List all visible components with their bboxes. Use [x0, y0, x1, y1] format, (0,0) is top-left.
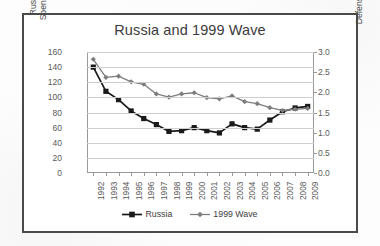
legend-item-russia[interactable]: Russia — [122, 210, 172, 219]
x-axis-tickmark — [282, 173, 283, 176]
x-axis-tick: 2002 — [223, 182, 231, 200]
right-axis-tickmark — [314, 52, 317, 53]
chart-title: Russia and 1999 Wave — [24, 22, 356, 38]
x-axis-tickmark — [131, 173, 132, 176]
x-axis-tickmark — [207, 173, 208, 176]
legend-square-marker-icon — [122, 210, 142, 219]
right-axis-tick: 0.5 — [318, 149, 358, 158]
chart-figure-frame: Russia and 1999 Wave Russian Military Sp… — [22, 13, 358, 233]
x-axis-tickmark — [270, 173, 271, 176]
legend-label: 1999 Wave — [213, 210, 257, 219]
x-axis-tick: 1993 — [110, 182, 118, 200]
plot-area — [87, 52, 314, 173]
right-axis-tickmark — [314, 113, 317, 114]
x-axis-tickmark — [245, 173, 246, 176]
left-axis-tick: 100 — [22, 93, 62, 102]
legend-label: Russia — [145, 210, 172, 219]
x-axis-tickmark — [182, 173, 183, 176]
gridline — [87, 128, 314, 129]
gridline — [87, 113, 314, 114]
gridline — [87, 82, 314, 83]
right-axis-tick: 2.5 — [318, 68, 358, 77]
x-axis-tick: 2004 — [248, 182, 256, 200]
left-axis-title: Russian Military Spending ($million — [28, 0, 49, 49]
x-axis-tick: 1995 — [135, 182, 143, 200]
x-axis-tickmark — [93, 173, 94, 176]
x-axis-tickmark — [144, 173, 145, 176]
left-axis-tick: 160 — [22, 48, 62, 57]
x-axis-tick: 1996 — [147, 182, 155, 200]
left-axis-tick: 0 — [22, 169, 62, 178]
legend-diamond-marker-icon — [190, 210, 210, 219]
x-axis-tickmark — [119, 173, 120, 176]
x-axis-tick: 2003 — [236, 182, 244, 200]
left-axis-tick: 40 — [22, 139, 62, 148]
right-axis-title: Defense as % GDP — [354, 0, 364, 49]
left-axis-tick: 140 — [22, 63, 62, 72]
left-axis-title-line1: Russian Military — [28, 0, 38, 49]
gridline — [87, 67, 314, 68]
x-axis-tick: 1998 — [173, 182, 181, 200]
right-axis-tickmark — [314, 133, 317, 134]
x-axis-tickmark — [156, 173, 157, 176]
left-axis-tick: 80 — [22, 109, 62, 118]
x-axis-tickmark — [257, 173, 258, 176]
x-axis-tick: 2008 — [299, 182, 307, 200]
gridline — [87, 143, 314, 144]
right-axis-tickmark — [314, 72, 317, 73]
x-axis-tick: 1992 — [97, 182, 105, 200]
right-axis-tick: 2.0 — [318, 88, 358, 97]
x-axis-tickmark — [232, 173, 233, 176]
right-axis-tick: 1.5 — [318, 109, 358, 118]
left-axis-tick: 20 — [22, 154, 62, 163]
legend-item-1999-wave[interactable]: 1999 Wave — [190, 210, 257, 219]
left-axis-tick: 60 — [22, 124, 62, 133]
x-axis-tick: 1999 — [185, 182, 193, 200]
x-axis-tickmark — [308, 173, 309, 176]
gridline — [87, 97, 314, 98]
x-axis-tick: 2005 — [261, 182, 269, 200]
right-axis-tick: 0.0 — [318, 169, 358, 178]
right-axis-tickmark — [314, 153, 317, 154]
gridline — [87, 52, 314, 53]
x-axis-tickmark — [219, 173, 220, 176]
x-axis-tickmark — [169, 173, 170, 176]
x-axis-tick: 2009 — [311, 182, 319, 200]
left-axis-tick: 120 — [22, 78, 62, 87]
x-axis-tickmark — [295, 173, 296, 176]
x-axis-tickmark — [194, 173, 195, 176]
left-axis-title-line2: Spending ($million — [38, 0, 48, 49]
x-axis-tick: 2000 — [198, 182, 206, 200]
x-axis-tick: 2001 — [210, 182, 218, 200]
x-axis-tick: 2006 — [273, 182, 281, 200]
right-axis-tick: 1.0 — [318, 129, 358, 138]
x-axis-tick: 2007 — [286, 182, 294, 200]
gridline — [87, 158, 314, 159]
right-axis-tickmark — [314, 173, 317, 174]
chart-legend: Russia1999 Wave — [24, 210, 356, 219]
right-axis-tickmark — [314, 92, 317, 93]
x-axis-tick: 1994 — [122, 182, 130, 200]
x-axis-tickmark — [106, 173, 107, 176]
right-axis-tick: 3.0 — [318, 48, 358, 57]
x-axis-tick: 1997 — [160, 182, 168, 200]
